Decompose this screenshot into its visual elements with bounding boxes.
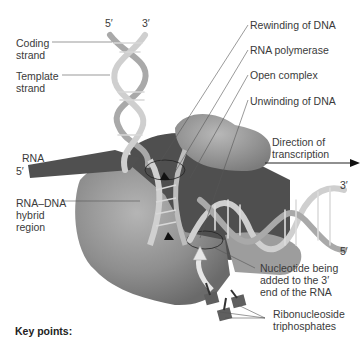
rna-label: RNA (22, 152, 44, 164)
top-5-prime-label: 5′ (105, 17, 113, 29)
open-complex-label: Open complex (250, 69, 318, 81)
rna-polymerase-label: RNA polymerase (250, 44, 329, 56)
right-3-prime-label: 3′ (340, 179, 348, 191)
rntp-label: Ribonucleoside triphosphates (273, 308, 345, 332)
right-5-prime-label: 5′ (340, 245, 348, 257)
direction-label: Direction of transcription (272, 136, 329, 160)
template-strand-label: Template strand (16, 70, 59, 94)
nucleotide-added-label: Nucleotide being added to the 3′ end of … (260, 262, 338, 298)
direction-arrow (265, 159, 360, 167)
upstream-dna-helix (110, 35, 148, 170)
hybrid-region-label: RNA–DNA hybrid region (16, 197, 66, 233)
rna-5-prime-label: 5′ (16, 165, 24, 177)
key-points-heading: Key points: (15, 325, 72, 337)
coding-strand-label: Coding strand (16, 37, 49, 61)
rewinding-label: Rewinding of DNA (250, 19, 336, 31)
unwinding-label: Unwinding of DNA (250, 95, 336, 107)
top-3-prime-label: 3′ (142, 17, 150, 29)
